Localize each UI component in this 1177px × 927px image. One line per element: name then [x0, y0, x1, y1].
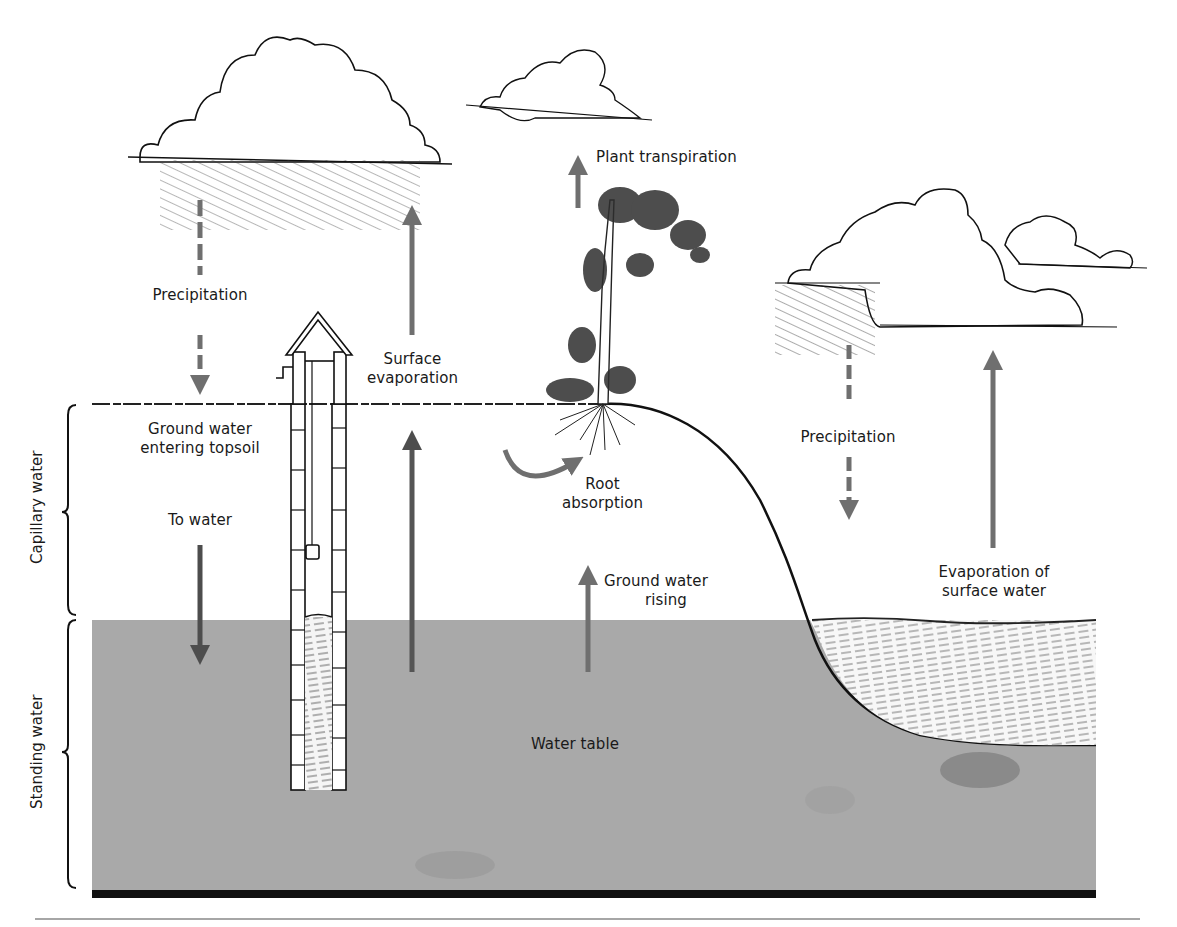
water-cycle-diagram: Capillary water Standing water Precipita…: [0, 0, 1177, 927]
evaporation-surface-water-line2: surface water: [930, 582, 1058, 601]
root-absorption-arrow: [505, 450, 575, 476]
cloud-center-small: [466, 50, 652, 121]
cloud-far-right: [1005, 216, 1147, 268]
capillary-water-label: Capillary water: [28, 454, 46, 564]
ground-water-rising-line1: Ground water: [600, 572, 712, 591]
ground-water-entering-line1: Ground water: [125, 420, 275, 439]
plant-transpiration-label: Plant transpiration: [596, 148, 737, 167]
ground-water-rising-line2: rising: [600, 591, 712, 610]
ground-water-entering-label: Ground water entering topsoil: [125, 420, 275, 458]
standing-brace: [62, 620, 76, 888]
precipitation-right-label: Precipitation: [793, 428, 903, 447]
tree: [546, 187, 710, 455]
capillary-brace: [62, 405, 76, 615]
water-table-label: Water table: [520, 735, 630, 754]
evaporation-surface-water-label: Evaporation of surface water: [930, 563, 1058, 601]
surface-evaporation-line1: Surface: [365, 350, 460, 369]
root-absorption-label: Root absorption: [550, 475, 655, 513]
standing-water-label: Standing water: [28, 699, 46, 809]
ground-water-rising-label: Ground water rising: [600, 572, 712, 610]
diagram-artwork: [0, 0, 1177, 927]
cloud-left-raining: [128, 37, 452, 230]
evaporation-surface-water-line1: Evaporation of: [930, 563, 1058, 582]
surface-evaporation-line2: evaporation: [365, 369, 460, 388]
cloud-right-raining: [775, 189, 1117, 355]
surface-evaporation-label: Surface evaporation: [365, 350, 460, 388]
root-absorption-line2: absorption: [550, 494, 655, 513]
to-water-label: To water: [150, 511, 250, 530]
root-absorption-line1: Root: [550, 475, 655, 494]
precipitation-left-label: Precipitation: [145, 286, 255, 305]
ground-water-entering-line2: entering topsoil: [125, 439, 275, 458]
